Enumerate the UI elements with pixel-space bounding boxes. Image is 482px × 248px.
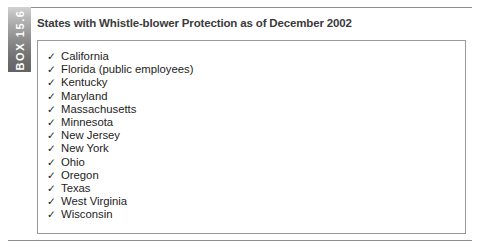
state-name: Massachusetts: [61, 103, 136, 116]
list-item: ✓Kentucky: [47, 76, 193, 89]
check-icon: ✓: [47, 195, 61, 208]
box-number-tab: BOX 15.6: [8, 7, 31, 72]
box-title: States with Whistle-blower Protection as…: [37, 13, 462, 33]
list-item: ✓Ohio: [47, 156, 193, 169]
check-icon: ✓: [47, 169, 61, 182]
check-icon: ✓: [47, 50, 61, 63]
state-name: Oregon: [61, 169, 99, 182]
list-item: ✓Florida (public employees): [47, 63, 193, 76]
list-item: ✓California: [47, 50, 193, 63]
state-name: Maryland: [61, 90, 107, 103]
state-name: California: [61, 50, 109, 63]
check-icon: ✓: [47, 182, 61, 195]
state-name: Wisconsin: [61, 208, 112, 221]
check-icon: ✓: [47, 63, 61, 76]
check-icon: ✓: [47, 142, 61, 155]
list-item: ✓Maryland: [47, 90, 193, 103]
state-name: Ohio: [61, 156, 85, 169]
check-icon: ✓: [47, 208, 61, 221]
list-item: ✓Minnesota: [47, 116, 193, 129]
list-item: ✓Texas: [47, 182, 193, 195]
box-content-panel: ✓California✓Florida (public employees)✓K…: [37, 40, 466, 234]
state-name: Texas: [61, 182, 91, 195]
state-name: New Jersey: [61, 129, 120, 142]
box-figure: BOX 15.6 States with Whistle-blower Prot…: [0, 0, 482, 248]
list-item: ✓New York: [47, 142, 193, 155]
state-list: ✓California✓Florida (public employees)✓K…: [47, 50, 193, 221]
list-item: ✓Oregon: [47, 169, 193, 182]
state-name: West Virginia: [61, 195, 127, 208]
box-number-label: BOX 15.6: [14, 9, 25, 70]
list-item: ✓New Jersey: [47, 129, 193, 142]
check-icon: ✓: [47, 103, 61, 116]
check-icon: ✓: [47, 116, 61, 129]
check-icon: ✓: [47, 76, 61, 89]
state-name: Florida (public employees): [61, 63, 193, 76]
check-icon: ✓: [47, 129, 61, 142]
state-name: Kentucky: [61, 76, 107, 89]
check-icon: ✓: [47, 90, 61, 103]
list-item: ✓Massachusetts: [47, 103, 193, 116]
state-name: New York: [61, 142, 109, 155]
check-icon: ✓: [47, 156, 61, 169]
list-item: ✓West Virginia: [47, 195, 193, 208]
state-name: Minnesota: [61, 116, 113, 129]
list-item: ✓Wisconsin: [47, 208, 193, 221]
